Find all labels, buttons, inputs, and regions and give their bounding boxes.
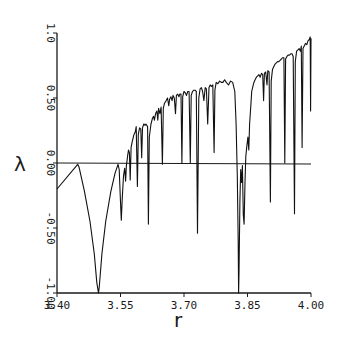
x-tick-label: 4.00 (298, 299, 325, 312)
y-tick-label: 1.0 (44, 23, 57, 43)
x-axis-label: r (174, 308, 183, 332)
y-tick-label: 0.00 (44, 150, 57, 177)
y-axis: 1.00.500.00-0.50-1.00 (44, 23, 57, 310)
x-ticks: 3.403.553.703.854.00 (44, 293, 325, 312)
x-tick-label: 3.85 (234, 299, 261, 312)
x-axis: 3.403.553.703.854.00 (44, 293, 325, 312)
lyapunov-exponent-curve (57, 37, 311, 293)
lyapunov-chart: 1.00.500.00-0.50-1.00 3.403.553.703.854.… (0, 0, 348, 347)
y-tick-label: -0.50 (44, 211, 57, 244)
y-ticks: 1.00.500.00-0.50-1.00 (44, 23, 57, 310)
x-tick-label: 3.55 (107, 299, 134, 312)
x-tick-label: 3.40 (44, 299, 71, 312)
y-axis-label: λ (14, 152, 26, 176)
y-tick-label: 0.50 (44, 85, 57, 112)
zero-reference-line (57, 163, 311, 164)
